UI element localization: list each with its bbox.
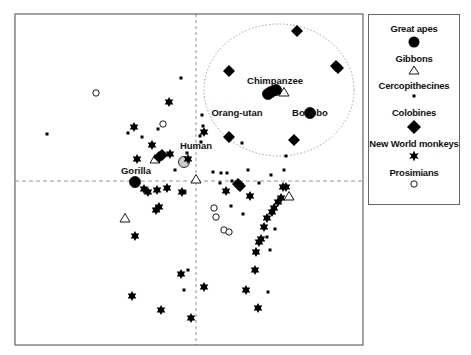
cercopithecine-point bbox=[212, 171, 215, 174]
cercopithecine-point bbox=[267, 291, 270, 294]
cercopithecine-point bbox=[241, 142, 244, 145]
cercopithecine-point bbox=[270, 174, 273, 177]
legend-label: Prosimians bbox=[369, 167, 459, 178]
cercopithecine-point bbox=[274, 228, 277, 231]
cercopithecine-point bbox=[157, 128, 160, 131]
legend-label: Gibbons bbox=[369, 53, 459, 64]
legend-label: Great apes bbox=[369, 23, 459, 34]
legend-item-great-apes: Great apes bbox=[369, 23, 459, 49]
prosimian-point bbox=[160, 121, 166, 127]
legend-label: Cercopithecines bbox=[369, 80, 459, 91]
prosimian-point bbox=[226, 229, 232, 235]
cercopithecine-point bbox=[266, 236, 269, 239]
cercopithecine-point bbox=[180, 77, 183, 80]
legend: Great apes Gibbons Cercopithecines Colob… bbox=[368, 14, 460, 205]
great-ape-point bbox=[266, 87, 277, 98]
legend-item-cercopithecines: Cercopithecines bbox=[369, 80, 459, 100]
legend-label: Colobines bbox=[369, 107, 459, 118]
legend-item-new-world-monkeys: New World monkeys bbox=[369, 138, 459, 162]
legend-item-colobines: Colobines bbox=[369, 107, 459, 135]
cercopithecine-point bbox=[220, 172, 223, 175]
cercopithecine-point bbox=[127, 132, 130, 135]
filled-diamond-icon bbox=[406, 119, 422, 135]
cercopithecine-point bbox=[201, 114, 204, 117]
cercopithecine-point bbox=[174, 169, 177, 172]
prosimian-point bbox=[211, 205, 217, 211]
legend-item-prosimians: Prosimians bbox=[369, 167, 459, 189]
cercopithecine-point bbox=[283, 169, 286, 172]
cercopithecine-point bbox=[219, 182, 222, 185]
cercopithecine-point bbox=[230, 205, 233, 208]
cercopithecine-point bbox=[226, 172, 229, 175]
small-square-icon bbox=[410, 92, 418, 100]
point-label: Bonobo bbox=[292, 107, 328, 118]
cercopithecine-point bbox=[187, 269, 190, 272]
legend-item-gibbons: Gibbons bbox=[369, 53, 459, 75]
star-icon bbox=[408, 150, 420, 162]
cercopithecine-point bbox=[242, 213, 245, 216]
cercopithecine-point bbox=[202, 125, 205, 128]
legend-label: New World monkeys bbox=[369, 138, 459, 149]
point-label: Chimpanzee bbox=[247, 75, 303, 86]
cercopithecine-point bbox=[199, 135, 202, 138]
filled-circle-icon bbox=[407, 35, 421, 49]
great-ape-point bbox=[130, 177, 141, 188]
cercopithecine-point bbox=[258, 182, 261, 185]
prosimian-point bbox=[213, 214, 219, 220]
point-label: Orang-utan bbox=[211, 107, 262, 118]
prosimian-point bbox=[93, 90, 99, 96]
point-label: Gorilla bbox=[121, 165, 152, 176]
point-label: Human bbox=[180, 140, 212, 151]
open-triangle-icon bbox=[408, 65, 420, 75]
cercopithecine-point bbox=[183, 289, 186, 292]
cercopithecine-point bbox=[141, 136, 144, 139]
open-circle-icon bbox=[409, 179, 419, 189]
cercopithecine-point bbox=[231, 180, 234, 183]
cercopithecine-point bbox=[46, 133, 49, 136]
plot-frame bbox=[15, 14, 363, 345]
cercopithecine-point bbox=[269, 249, 272, 252]
cercopithecine-point bbox=[247, 169, 250, 172]
cercopithecine-point bbox=[285, 155, 288, 158]
cercopithecine-point bbox=[186, 152, 189, 155]
